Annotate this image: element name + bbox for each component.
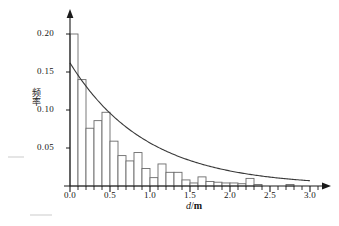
histogram-bar: [150, 178, 158, 186]
histogram-bar: [206, 181, 214, 186]
histogram-bar: [174, 172, 182, 186]
x-axis-arrow: [322, 183, 331, 190]
x-tick-label-15: 1.5: [176, 190, 204, 200]
histogram-bar: [246, 178, 254, 186]
y-axis-title: 频率: [30, 88, 43, 106]
histogram-bar: [118, 156, 126, 186]
x-tick-label-25: 2.5: [256, 190, 284, 200]
histogram-bar: [198, 177, 206, 186]
histogram-bar: [158, 164, 166, 186]
x-tick-label-30: 3.0: [296, 190, 324, 200]
histogram-bar: [86, 128, 94, 186]
x-axis-title: d/m: [186, 200, 202, 211]
y-tick-label-015: 0.15: [28, 66, 54, 76]
x-axis-title-unit: m: [194, 200, 202, 211]
histogram-bar: [70, 34, 78, 186]
histogram-bar: [182, 180, 190, 186]
histogram-bar: [94, 121, 102, 186]
x-tick-label-05: 0.5: [96, 190, 124, 200]
y-tick-label-005: 0.05: [28, 142, 54, 152]
scan-artifact-left: [8, 156, 24, 158]
histogram-bar: [126, 161, 134, 186]
y-axis-arrow: [67, 9, 74, 18]
histogram-bar: [134, 153, 142, 186]
x-tick-label-10: 1.0: [136, 190, 164, 200]
histogram-bar: [214, 182, 222, 186]
histogram-bar: [110, 141, 118, 186]
scan-artifact-bottom: [30, 214, 52, 216]
histogram-bar: [142, 169, 150, 186]
frequency-histogram-chart: 0.20 0.15 0.10 0.05 0.0 0.5 1.0 1.5 2.0 …: [0, 0, 339, 226]
x-tick-label-00: 0.0: [56, 190, 84, 200]
histogram-bar: [102, 112, 110, 186]
x-tick-label-20: 2.0: [216, 190, 244, 200]
y-tick-label-020: 0.20: [28, 28, 54, 38]
histogram-bars: [70, 34, 294, 186]
histogram-bar: [78, 80, 86, 186]
histogram-bar: [166, 172, 174, 186]
